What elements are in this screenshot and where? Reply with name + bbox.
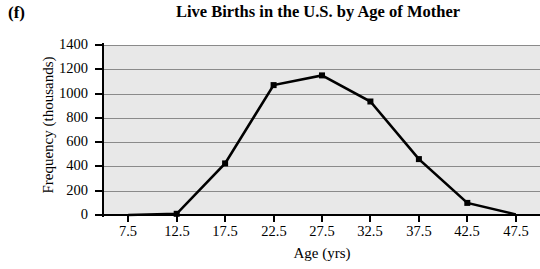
y-axis-title: Frequency (thousands) — [41, 56, 56, 193]
y-axis-tick — [95, 117, 103, 119]
x-axis-tick-label: 12.5 — [154, 224, 200, 240]
y-axis-tick-label: 1200 — [32, 61, 88, 75]
gridline — [104, 118, 540, 119]
x-axis-tick — [466, 215, 468, 222]
y-axis-tick-label-text: 600 — [32, 134, 88, 149]
gridline — [104, 45, 540, 46]
x-axis-tick-label-text: 7.5 — [105, 224, 151, 239]
y-axis-tick-label: 1400 — [32, 37, 88, 51]
y-axis-tick — [95, 68, 103, 70]
plot-area — [104, 45, 540, 215]
x-axis-tick — [515, 215, 517, 222]
y-axis-tick-label-text: 1200 — [32, 61, 88, 76]
y-axis-tick-label: 800 — [32, 110, 88, 124]
y-axis-tick — [95, 190, 103, 192]
y-axis-tick-label-text: 400 — [32, 158, 88, 173]
x-axis-tick-label: 27.5 — [299, 224, 345, 240]
x-axis-tick-label: 17.5 — [202, 224, 248, 240]
x-axis-tick-label-text: 37.5 — [396, 224, 442, 239]
y-axis-tick-label: 0 — [32, 207, 88, 221]
y-axis-tick-label: 600 — [32, 134, 88, 148]
x-axis-tick-label: 47.5 — [493, 224, 539, 240]
gridline — [104, 69, 540, 70]
x-axis-tick-label-text: 32.5 — [347, 224, 393, 239]
x-axis-tick — [176, 215, 178, 222]
figure-panel: (f) Live Births in the U.S. by Age of Mo… — [0, 0, 540, 269]
x-axis-tick — [321, 215, 323, 222]
x-axis-tick-label-text: 12.5 — [154, 224, 200, 239]
y-axis-tick-label-text: 200 — [32, 183, 88, 198]
chart-title: Live Births in the U.S. by Age of Mother — [96, 3, 540, 21]
panel-label: (f) — [8, 4, 25, 21]
x-axis-tick-label: 32.5 — [347, 224, 393, 240]
y-axis-tick-label: 200 — [32, 183, 88, 197]
gridline — [104, 94, 540, 95]
y-axis-tick-label-text: 1400 — [32, 37, 88, 52]
y-axis-tick-label-text: 1000 — [32, 86, 88, 101]
gridline — [104, 166, 540, 167]
x-axis-tick-label: 37.5 — [396, 224, 442, 240]
x-axis-tick-label-text: 42.5 — [444, 224, 490, 239]
y-axis-tick-label-text: 0 — [32, 207, 88, 222]
y-axis-tick-label: 1000 — [32, 86, 88, 100]
x-axis-tick-label: 42.5 — [444, 224, 490, 240]
y-axis-tick — [95, 214, 103, 216]
gridline — [104, 142, 540, 143]
x-axis-tick-label-text: 27.5 — [299, 224, 345, 239]
x-axis-tick-label-text: 47.5 — [493, 224, 539, 239]
y-axis-tick — [95, 165, 103, 167]
x-axis-title: Age (yrs) — [104, 246, 540, 261]
y-axis-tick-label: 400 — [32, 158, 88, 172]
y-axis-tick — [95, 141, 103, 143]
x-axis-tick — [224, 215, 226, 222]
x-axis-tick — [418, 215, 420, 222]
x-axis-tick — [369, 215, 371, 222]
y-axis-tick-label-text: 800 — [32, 110, 88, 125]
x-axis-tick-label: 22.5 — [251, 224, 297, 240]
x-axis-tick-label: 7.5 — [105, 224, 151, 240]
x-axis-tick-label-text: 17.5 — [202, 224, 248, 239]
y-axis-tick — [95, 93, 103, 95]
y-axis-tick — [95, 44, 103, 46]
x-axis-tick — [127, 215, 129, 222]
x-axis-tick — [273, 215, 275, 222]
x-axis-tick-label-text: 22.5 — [251, 224, 297, 239]
gridline — [104, 191, 540, 192]
